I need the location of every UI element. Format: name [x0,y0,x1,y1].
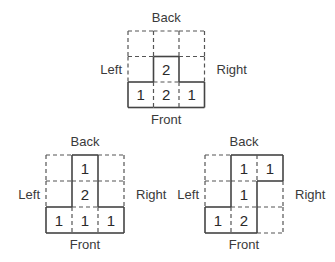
label-back: Back [152,10,181,25]
cell-height-value: 1 [81,160,89,177]
label-front: Front [70,237,101,252]
cell-height-value: 2 [162,61,170,78]
block-views-diagram: 2121BackFrontLeftRight12111BackFrontLeft… [0,0,335,262]
cell-height-value: 1 [107,212,115,229]
cell-height-value: 1 [188,86,196,103]
label-left: Left [18,187,40,202]
cell-height-value: 1 [137,86,145,103]
label-back: Back [230,134,259,149]
label-right: Right [136,187,167,202]
cell-height-value: 2 [81,186,89,203]
cell-height-value: 1 [240,160,248,177]
label-left: Left [100,62,122,77]
label-back: Back [71,134,100,149]
cell-height-value: 1 [81,212,89,229]
cell-height-value: 1 [55,212,63,229]
diagram-top: 2121BackFrontLeftRight [100,10,247,127]
diagram-bottom-right: 11112BackFrontLeftRight [177,134,325,252]
label-left: Left [177,187,199,202]
cell-height-value: 2 [162,86,170,103]
cell-height-value: 1 [240,186,248,203]
label-right: Right [217,62,248,77]
cell-height-value: 1 [266,160,274,177]
label-front: Front [229,237,260,252]
diagram-bottom-left: 12111BackFrontLeftRight [18,134,166,252]
cell-height-value: 2 [240,212,248,229]
label-front: Front [151,112,182,127]
cell-height-value: 1 [214,212,222,229]
label-right: Right [295,187,326,202]
